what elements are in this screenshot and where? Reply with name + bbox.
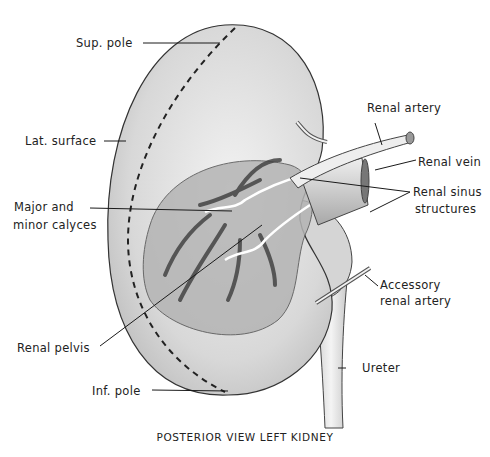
figure-caption: POSTERIOR VIEW LEFT KIDNEY <box>0 431 490 443</box>
label-calyces-line1: Major and <box>14 200 74 214</box>
label-inf-pole: Inf. pole <box>92 384 141 398</box>
label-ureter: Ureter <box>362 361 400 375</box>
label-sup-pole: Sup. pole <box>76 36 133 50</box>
label-accessory-line1: Accessory <box>380 278 441 292</box>
label-renal-pelvis: Renal pelvis <box>17 341 90 355</box>
label-renal-artery: Renal artery <box>367 101 441 115</box>
label-lat-surface: Lat. surface <box>25 134 96 148</box>
label-renal-sinus-line2: structures <box>415 202 476 216</box>
label-accessory-line2: renal artery <box>380 294 451 308</box>
label-renal-vein: Renal vein <box>418 155 481 169</box>
kidney-diagram: Sup. pole Lat. surface Major and minor c… <box>0 0 490 457</box>
label-calyces-line2: minor calyces <box>13 218 97 232</box>
label-renal-sinus-line1: Renal sinus <box>413 185 482 199</box>
